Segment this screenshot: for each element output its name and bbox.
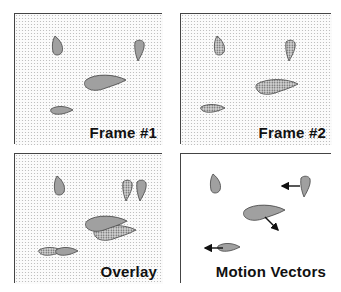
- overlay-label: Overlay: [101, 263, 157, 280]
- frame-1-label: Frame #1: [90, 124, 157, 141]
- frame-1-panel: Frame #1: [14, 13, 162, 144]
- motion-vectors-panel: Motion Vectors: [180, 153, 331, 283]
- overlay-panel: Overlay: [14, 153, 162, 283]
- motion-vectors-label: Motion Vectors: [216, 263, 326, 280]
- frame-2-panel: Frame #2: [180, 13, 331, 144]
- frame-2-label: Frame #2: [259, 124, 326, 141]
